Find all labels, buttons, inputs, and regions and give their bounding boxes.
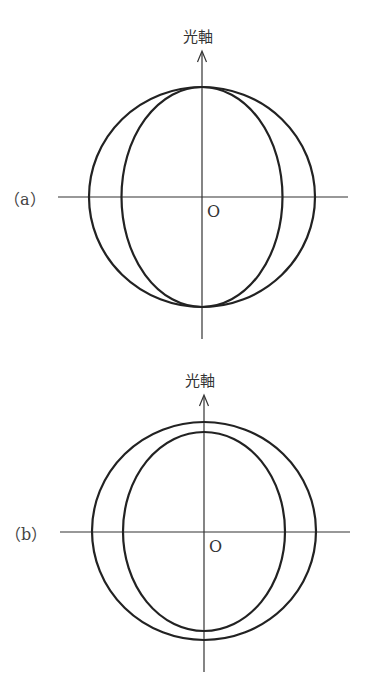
case-label: （a） [4,186,46,210]
optic-axis-label: 光軸 [185,369,215,390]
diagram-b-figure [0,350,375,695]
case-label: （b） [5,521,47,545]
origin-label: O [207,202,220,221]
diagram-b: 光軸 （b） O [0,350,375,695]
optic-axis-label: 光軸 [183,25,213,46]
diagram-a-figure [0,0,375,350]
diagram-a: 光軸 （a） O [0,0,375,350]
origin-label: O [209,537,222,556]
